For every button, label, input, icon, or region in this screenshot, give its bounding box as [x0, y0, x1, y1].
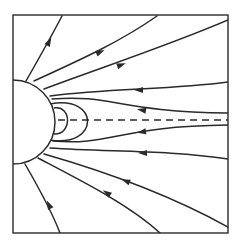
inner-loop — [54, 108, 68, 134]
field-line-8 — [44, 154, 228, 227]
field-line-2 — [34, 16, 157, 81]
arrow-icon — [134, 87, 143, 93]
diagram-content — [0, 16, 228, 233]
field-line-9 — [38, 158, 160, 233]
field-line-6 — [53, 125, 228, 142]
field-line-10 — [25, 164, 60, 233]
field-line-5 — [52, 98, 228, 113]
magnetosphere-diagram — [0, 0, 241, 247]
arrow-icon — [95, 47, 106, 56]
diagram-canvas — [0, 0, 241, 247]
arrow-icon — [120, 176, 131, 185]
planet-circle — [0, 80, 55, 164]
direction-arrows — [44, 36, 147, 210]
field-line-7 — [50, 148, 228, 159]
